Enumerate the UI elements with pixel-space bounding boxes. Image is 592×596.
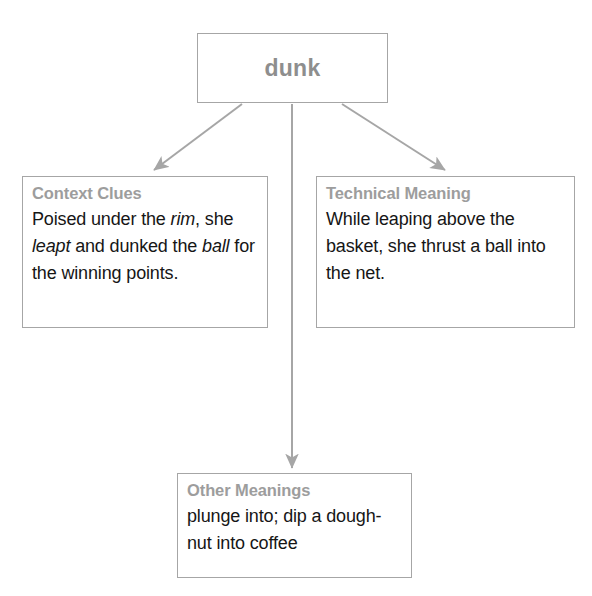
root-node-label: dunk [264,55,320,82]
node-context-clues-body: Poised under the rim, she leapt and dunk… [32,206,259,288]
node-other-meanings-content: Other Meanings plunge into; dip a dough-… [178,474,411,557]
diagram-canvas: dunk Context Clues Poised under the rim,… [0,0,592,596]
node-technical-meaning-heading: Technical Meaning [326,183,566,205]
root-node-dunk: dunk [197,33,388,103]
arrow-root-to-technical-meaning [342,104,445,170]
node-other-meanings-body: plunge into; dip a dough-nut into coffee [187,503,403,558]
arrow-root-to-context-clues [154,104,242,170]
node-technical-meaning-body: While leaping above the basket, she thru… [326,206,566,288]
node-technical-meaning: Technical Meaning While leaping above th… [316,176,575,328]
node-technical-meaning-content: Technical Meaning While leaping above th… [317,177,574,288]
node-other-meanings-heading: Other Meanings [187,480,403,502]
node-context-clues-content: Context Clues Poised under the rim, she … [23,177,267,288]
node-other-meanings: Other Meanings plunge into; dip a dough-… [177,473,412,578]
node-context-clues: Context Clues Poised under the rim, she … [22,176,268,328]
node-context-clues-heading: Context Clues [32,183,259,205]
